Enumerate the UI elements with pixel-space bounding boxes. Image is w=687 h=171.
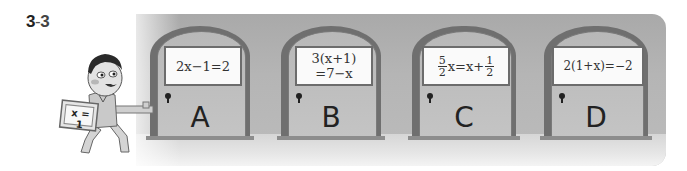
boy-illustration-icon	[55, 40, 155, 160]
equation-sign: 3(x+1) =7−x	[295, 46, 373, 86]
equation-line-2: =7−x	[315, 66, 352, 81]
boy-character: x = 1	[55, 40, 155, 160]
problem-number: 3-3	[26, 12, 49, 32]
fraction-denominator: 2	[438, 67, 447, 78]
sign-text: x = 1	[66, 107, 94, 132]
problem-main: 3	[26, 12, 35, 31]
door-label: B	[281, 101, 381, 134]
problem-sub: 3	[40, 12, 49, 31]
equation-text: 2(1+x)=−2	[563, 59, 632, 74]
door-d[interactable]: 2(1+x)=−2 D	[544, 26, 648, 136]
door-label: A	[150, 101, 250, 134]
fraction-five-halves: 5 2	[438, 55, 447, 78]
door-threshold	[146, 136, 254, 140]
door-label: D	[544, 101, 648, 134]
door-threshold	[408, 136, 520, 140]
door-a[interactable]: 2x−1=2 A	[150, 26, 250, 136]
door-c[interactable]: 5 2 x=x+ 1 2 C	[412, 26, 516, 136]
door-b[interactable]: 3(x+1) =7−x B	[281, 26, 381, 136]
equation-sign: 5 2 x=x+ 1 2	[422, 46, 510, 86]
fraction-one-half: 1 2	[485, 55, 494, 78]
equation-text: 2x−1=2	[176, 59, 230, 74]
equation-sign: 2x−1=2	[164, 46, 242, 86]
fraction-numerator: 1	[485, 55, 494, 67]
equation-line-1: 3(x+1)	[312, 51, 357, 66]
equation-middle: x=x+	[448, 59, 484, 74]
door-threshold	[540, 136, 652, 140]
door-threshold	[277, 136, 385, 140]
equation-sign: 2(1+x)=−2	[552, 46, 644, 86]
fraction-numerator: 5	[438, 55, 447, 67]
door-label: C	[412, 101, 516, 134]
fraction-denominator: 2	[485, 67, 494, 78]
